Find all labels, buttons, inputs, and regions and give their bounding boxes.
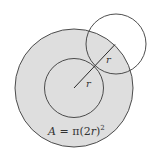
area-formula: A = π(2r)2 bbox=[47, 124, 105, 138]
circle-area-diagram: r r A = π(2r)2 bbox=[0, 0, 158, 156]
formula-eq: = π(2 bbox=[56, 125, 91, 138]
formula-lhs: A bbox=[47, 125, 56, 138]
formula-exponent: 2 bbox=[100, 124, 104, 132]
